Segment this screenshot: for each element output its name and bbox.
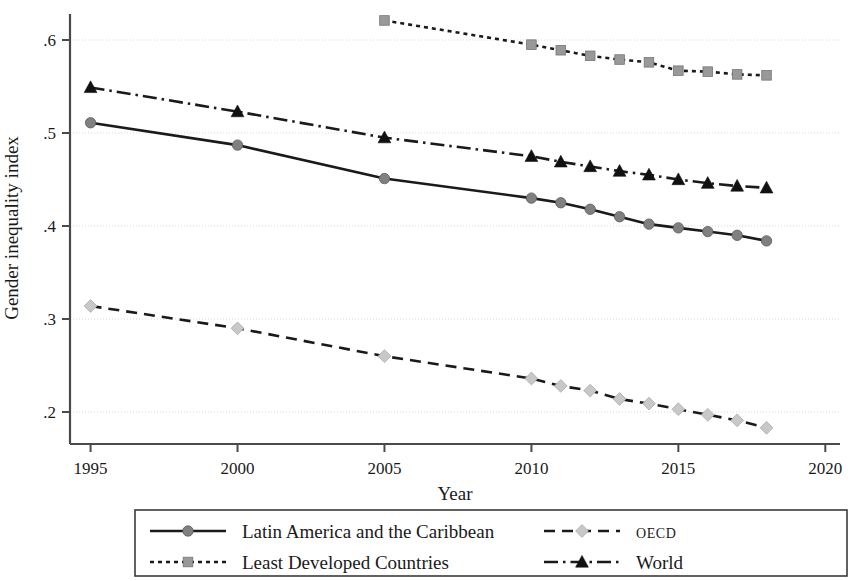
x-axis-title: Year	[437, 483, 473, 504]
series-circle	[85, 118, 771, 247]
x-tick-label: 2005	[367, 459, 401, 478]
data-point-marker	[760, 421, 773, 434]
series-diamond	[84, 300, 773, 435]
x-tick-label: 2010	[514, 459, 548, 478]
data-point-marker	[644, 58, 654, 68]
data-point-marker	[615, 55, 625, 65]
x-tick-label: 2015	[661, 459, 695, 478]
x-tick-labels: 199520002005201020152020	[74, 459, 843, 478]
chart-legend: Latin America and the CaribbeanLeast Dev…	[135, 510, 847, 576]
legend-label: OECD	[636, 526, 677, 541]
data-point-marker	[527, 40, 537, 50]
data-point-marker	[732, 230, 742, 240]
y-tick-label: .6	[43, 31, 56, 50]
data-point-marker	[585, 204, 595, 214]
data-point-marker	[644, 219, 654, 229]
data-point-marker	[554, 380, 567, 393]
y-axis-title: Gender inequality index	[1, 136, 22, 320]
data-point-marker	[380, 16, 390, 26]
data-point-marker	[183, 526, 193, 536]
data-point-marker	[525, 150, 538, 162]
data-point-marker	[761, 236, 771, 246]
axis-lines	[70, 14, 840, 444]
data-point-marker	[379, 173, 389, 183]
data-point-marker	[701, 408, 714, 421]
data-point-marker	[673, 223, 683, 233]
data-point-marker	[762, 71, 772, 81]
data-point-marker	[584, 384, 597, 397]
x-tick-label: 2020	[808, 459, 842, 478]
data-point-marker	[584, 160, 597, 172]
y-tick-label: .3	[43, 310, 56, 329]
data-point-marker	[613, 393, 626, 406]
data-point-marker	[703, 67, 713, 77]
data-point-marker	[672, 403, 685, 416]
x-tick-label: 2000	[221, 459, 255, 478]
data-point-marker	[643, 397, 656, 410]
gridlines	[70, 40, 840, 412]
data-point-marker	[674, 66, 684, 76]
data-point-marker	[703, 226, 713, 236]
y-tick-label: .4	[43, 217, 56, 236]
legend-label: Latin America and the Caribbean	[242, 521, 495, 542]
data-point-marker	[183, 557, 193, 567]
data-point-marker	[525, 372, 538, 385]
data-series-layer	[84, 16, 773, 435]
y-tick-label: .5	[43, 124, 56, 143]
series-line	[91, 306, 767, 428]
series-line	[91, 123, 767, 241]
chart-canvas: 199520002005201020152020 .6.5.4.3.2 Gend…	[0, 0, 853, 581]
data-point-marker	[731, 414, 744, 427]
data-point-marker	[84, 81, 97, 93]
data-point-marker	[585, 51, 595, 61]
data-point-marker	[614, 212, 624, 222]
data-point-marker	[84, 300, 97, 313]
data-point-marker	[760, 181, 773, 193]
legend-label: Least Developed Countries	[242, 552, 449, 573]
y-tick-labels: .6.5.4.3.2	[43, 31, 56, 422]
x-tick-label: 1995	[74, 459, 108, 478]
y-tick-label: .2	[43, 403, 56, 422]
data-point-marker	[526, 193, 536, 203]
data-point-marker	[378, 350, 391, 363]
gender-inequality-index-chart: 199520002005201020152020 .6.5.4.3.2 Gend…	[0, 0, 853, 581]
legend-label: World	[636, 552, 684, 573]
data-point-marker	[231, 322, 244, 335]
data-point-marker	[556, 45, 566, 55]
data-point-marker	[556, 198, 566, 208]
data-point-marker	[232, 140, 242, 150]
series-square	[380, 16, 772, 80]
data-point-marker	[732, 70, 742, 80]
data-point-marker	[85, 118, 95, 128]
